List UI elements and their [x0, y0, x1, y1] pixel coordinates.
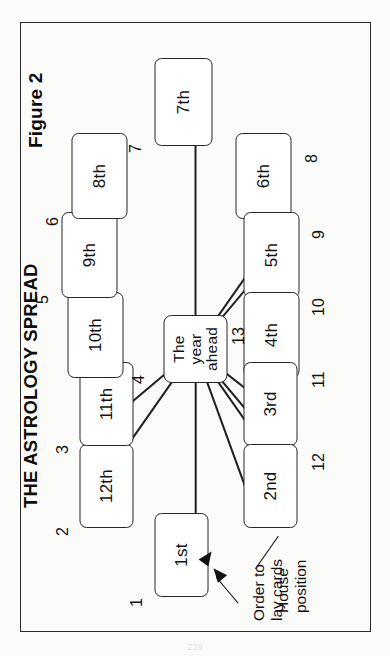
card-house-6th[interactable]: 6th — [236, 133, 292, 219]
card-house-7th[interactable]: 7th — [155, 58, 213, 146]
order-label-line-1: Order to — [250, 559, 268, 621]
order-number-2: 2 — [54, 527, 72, 536]
card-house-9th[interactable]: 9th — [62, 212, 118, 298]
card-house-5th[interactable]: 5th — [244, 212, 300, 298]
order-number-9: 9 — [310, 230, 328, 239]
page-number-artifact: 239 — [0, 642, 390, 652]
card-center-the-year-ahead[interactable]: The year ahead — [164, 315, 228, 383]
card-house-12th[interactable]: 12th — [80, 444, 134, 528]
card-house-10th[interactable]: 10th — [68, 292, 124, 378]
order-number-1: 1 — [128, 598, 146, 607]
order-number-3: 3 — [54, 445, 72, 454]
scanned-page: THE ASTROLOGY SPREAD Figure 2 The year a… — [0, 0, 390, 656]
center-card-line-1: The — [170, 335, 187, 362]
order-number-10: 10 — [310, 298, 328, 316]
astrology-spread-diagram: The year ahead 13 1st112th211th310th49th… — [22, 25, 369, 631]
card-house-8th[interactable]: 8th — [72, 133, 128, 219]
house-label-line-2: position — [292, 560, 310, 613]
figure-label: Figure 2 — [25, 38, 47, 148]
order-number-4: 4 — [130, 375, 148, 384]
house-position-label: House position — [274, 560, 311, 613]
order-number-6: 6 — [44, 217, 62, 226]
order-number-12: 12 — [310, 453, 328, 471]
center-card-line-3: ahead — [204, 327, 221, 371]
house-label-line-1: House — [274, 560, 292, 613]
order-number-13: 13 — [230, 327, 248, 345]
order-number-11: 11 — [310, 371, 328, 388]
order-number-8: 8 — [303, 154, 321, 163]
order-arrow-head — [209, 564, 227, 582]
card-house-3rd[interactable]: 3rd — [244, 362, 298, 446]
card-house-2nd[interactable]: 2nd — [244, 444, 298, 528]
page-title: THE ASTROLOGY SPREAD — [20, 278, 42, 508]
center-card-line-2: year — [187, 334, 204, 365]
order-number-7: 7 — [127, 144, 145, 153]
